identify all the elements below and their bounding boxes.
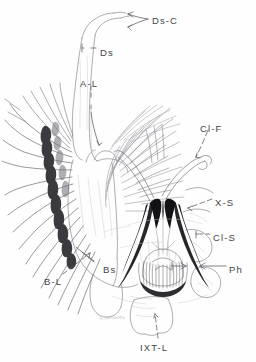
label-ds-c: Ds-C bbox=[152, 16, 178, 26]
upper-right-hair-spray bbox=[110, 105, 180, 150]
label-bs: Bs bbox=[103, 265, 116, 275]
label-b-l: B-L bbox=[44, 277, 62, 287]
artist-signature: A.Shimabu bbox=[99, 315, 125, 321]
left-seta-fan-upper bbox=[5, 83, 73, 148]
label-ds: Ds bbox=[100, 48, 114, 58]
central-sclerite-detail bbox=[152, 221, 174, 256]
label-cl-s: Cl-S bbox=[213, 233, 236, 243]
anatomical-line-drawing bbox=[0, 0, 256, 362]
label-x-s: X-S bbox=[215, 198, 234, 208]
label-a-l: A-L bbox=[80, 79, 98, 89]
claspette-filament bbox=[114, 151, 212, 202]
figure-page: Ds-C Ds A-L Cl-F X-S Cl-S Ph B-L Bs IXT-… bbox=[0, 0, 256, 362]
membrane-texture bbox=[78, 56, 213, 317]
phallosome-hair-brush bbox=[139, 261, 188, 288]
label-ixt-l: IXT-L bbox=[140, 343, 168, 353]
label-cl-f: Cl-F bbox=[200, 124, 222, 134]
label-ph: Ph bbox=[229, 265, 243, 275]
